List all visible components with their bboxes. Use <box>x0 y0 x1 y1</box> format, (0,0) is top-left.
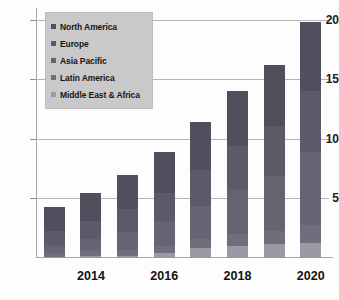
bar-segment <box>154 246 175 253</box>
bar-segment <box>80 221 101 239</box>
bar-segment <box>117 256 138 258</box>
y-tick-label: 15 <box>311 74 339 84</box>
y-tick-mark <box>30 20 36 21</box>
legend-item[interactable]: Latin America <box>51 69 148 86</box>
bar-segment <box>190 239 211 249</box>
bar-segment <box>300 243 321 258</box>
bar-segment <box>264 244 285 258</box>
legend-swatch-icon <box>51 75 56 80</box>
bar-2014[interactable] <box>80 193 101 258</box>
bar-segment <box>80 239 101 251</box>
bar-segment <box>190 248 211 258</box>
bar-segment <box>154 253 175 258</box>
bar-segment <box>44 231 65 245</box>
x-tick-label-2014: 2014 <box>67 270 115 282</box>
y-tick-mark <box>30 79 36 80</box>
x-tick-label-2016: 2016 <box>140 270 188 282</box>
y-tick-mark <box>30 198 36 199</box>
y-tick-label: 5 <box>311 193 339 203</box>
bar-segment <box>264 176 285 231</box>
bar-segment <box>117 232 138 250</box>
legend-item-label: Asia Pacific <box>60 56 107 66</box>
legend-item[interactable]: Europe <box>51 35 148 52</box>
bar-segment <box>227 246 248 258</box>
bar-2019[interactable] <box>264 65 285 258</box>
bar-segment <box>190 206 211 239</box>
bar-segment <box>44 207 65 231</box>
legend-item[interactable]: North America <box>51 18 148 35</box>
bar-segment <box>300 225 321 243</box>
bar-segment <box>190 170 211 206</box>
legend-swatch-icon <box>51 24 56 29</box>
bar-segment <box>154 221 175 246</box>
chart-legend: North AmericaEuropeAsia PacificLatin Ame… <box>45 12 153 109</box>
bar-2017[interactable] <box>190 122 211 258</box>
bar-segment <box>227 189 248 234</box>
legend-item-label: Europe <box>60 39 89 49</box>
bar-segment <box>227 146 248 189</box>
legend-swatch-icon <box>51 58 56 63</box>
bar-segment <box>154 152 175 192</box>
bar-segment <box>117 175 138 210</box>
y-tick-label: 10 <box>311 134 339 144</box>
legend-item-label: Latin America <box>60 73 115 83</box>
legend-item[interactable]: Asia Pacific <box>51 52 148 69</box>
bar-2013[interactable] <box>44 207 65 258</box>
bar-2018[interactable] <box>227 91 248 258</box>
legend-item-label: North America <box>60 22 117 32</box>
bar-segment <box>264 65 285 126</box>
bar-segment <box>190 122 211 170</box>
bar-segment <box>264 126 285 176</box>
gridline <box>36 139 329 140</box>
bar-segment <box>264 231 285 244</box>
legend-item[interactable]: Middle East & Africa <box>51 86 148 103</box>
legend-swatch-icon <box>51 41 56 46</box>
bar-segment <box>117 209 138 232</box>
bar-segment <box>44 257 65 258</box>
legend-item-label: Middle East & Africa <box>60 90 140 100</box>
bar-segment <box>227 91 248 146</box>
x-tick-label-2020: 2020 <box>287 270 335 282</box>
bar-segment <box>44 245 65 253</box>
bar-2016[interactable] <box>154 152 175 258</box>
bar-segment <box>80 256 101 258</box>
stacked-bar-chart: 5101520 2014201620182020 North AmericaEu… <box>0 0 339 300</box>
y-tick-mark <box>30 139 36 140</box>
bar-segment <box>80 193 101 222</box>
x-tick-label-2018: 2018 <box>213 270 261 282</box>
y-tick-label: 20 <box>311 15 339 25</box>
bar-segment <box>300 152 321 225</box>
legend-swatch-icon <box>51 92 56 97</box>
bar-2015[interactable] <box>117 175 138 258</box>
bar-segment <box>227 234 248 246</box>
bar-segment <box>154 193 175 222</box>
